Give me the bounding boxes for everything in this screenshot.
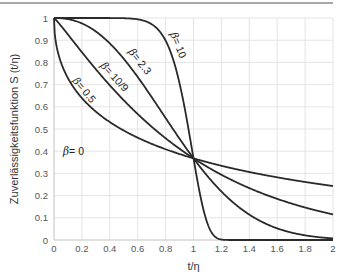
label-beta-0: β= 0 <box>62 145 84 157</box>
x-tick-label: 0.6 <box>131 243 144 254</box>
x-tick-label: 1.6 <box>271 243 284 254</box>
y-tick-label: 0.7 <box>35 79 48 90</box>
x-axis-label: t/η <box>187 260 199 272</box>
y-tick-label: 0.6 <box>35 101 48 112</box>
x-tick-label: 0 <box>51 243 56 254</box>
y-tick-label: 0.2 <box>35 190 48 201</box>
y-tick-label: 0.5 <box>35 124 48 135</box>
x-tick-label: 1.8 <box>298 243 311 254</box>
x-tick-label: 0.2 <box>75 243 88 254</box>
x-tick-label: 1 <box>191 243 196 254</box>
label-beta-2-3: β= 2.3 <box>126 45 154 77</box>
y-tick-labels: 00.10.20.30.40.50.60.70.80.91 <box>35 13 48 246</box>
x-tick-label: 1.2 <box>215 243 228 254</box>
x-tick-labels: 00.20.40.60.811.21.41.61.82 <box>51 243 335 254</box>
grid-lines <box>54 18 333 240</box>
x-tick-label: 0.8 <box>159 243 172 254</box>
y-tick-label: 1 <box>43 13 48 24</box>
x-tick-label: 1.4 <box>243 243 256 254</box>
x-tick-label: 0.4 <box>103 243 116 254</box>
y-tick-label: 0.1 <box>35 212 48 223</box>
x-tick-label: 2 <box>330 243 335 254</box>
y-tick-label: 0 <box>43 235 48 246</box>
y-tick-label: 0.4 <box>35 146 48 157</box>
y-tick-label: 0.8 <box>35 57 48 68</box>
reliability-chart: 00.20.40.60.811.21.41.61.82 00.10.20.30.… <box>0 0 350 278</box>
y-tick-label: 0.3 <box>35 168 48 179</box>
y-tick-label: 0.9 <box>35 35 48 46</box>
y-axis-label: Zuverlässigkeitsfunktion S (t/η) <box>8 54 20 204</box>
